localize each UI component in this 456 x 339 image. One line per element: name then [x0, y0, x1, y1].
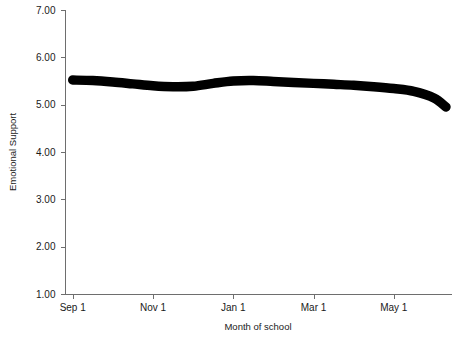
- x-tick-label: May 1: [380, 302, 408, 313]
- x-tick-labels: Sep 1Nov 1Jan 1Mar 1May 1: [60, 302, 408, 313]
- y-tick-label: 6.00: [36, 52, 56, 63]
- y-axis-title: Emotional Support: [7, 113, 18, 192]
- y-tick-label: 2.00: [36, 241, 56, 252]
- y-tick-label: 1.00: [36, 289, 56, 300]
- series-group: [73, 80, 446, 107]
- y-tick-label: 7.00: [36, 5, 56, 16]
- x-tick-label: Jan 1: [221, 302, 246, 313]
- x-tick-label: Mar 1: [301, 302, 327, 313]
- chart-plot: 7.006.005.004.003.002.001.00 Emotional S…: [0, 0, 456, 339]
- x-tick-label: Sep 1: [60, 302, 87, 313]
- y-tick-label: 4.00: [36, 147, 56, 158]
- x-axis-title: Month of school: [224, 321, 291, 332]
- x-tick-label: Nov 1: [140, 302, 167, 313]
- y-tick-labels: 7.006.005.004.003.002.001.00: [36, 5, 56, 300]
- x-axis-group: Sep 1Nov 1Jan 1Mar 1May 1 Month of schoo…: [60, 294, 452, 332]
- y-tick-label: 5.00: [36, 99, 56, 110]
- y-tick-marks: [61, 11, 66, 295]
- emotional-support-line: [73, 80, 446, 107]
- y-tick-label: 3.00: [36, 194, 56, 205]
- chart-container: 7.006.005.004.003.002.001.00 Emotional S…: [0, 0, 456, 339]
- y-axis-group: 7.006.005.004.003.002.001.00 Emotional S…: [7, 5, 66, 300]
